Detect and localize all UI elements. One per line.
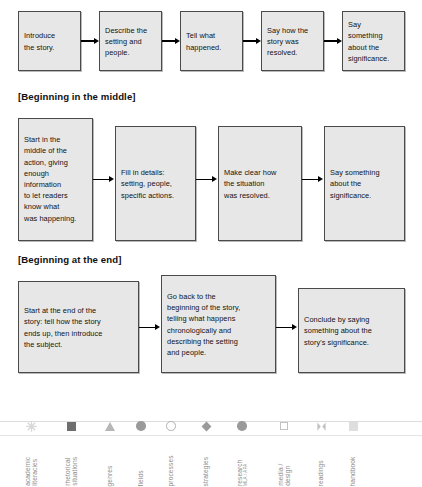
legend-item-processes[interactable]: processes [158,404,184,487]
arrow-head-icon [256,38,261,44]
arrow-head-icon [109,176,114,182]
flow-box: Go back to the beginning of the story, t… [161,275,276,373]
flow-arrow [93,176,115,183]
section-heading-beginning-at-the-end: [Beginning at the end] [18,254,121,265]
flow-arrow [81,38,99,45]
flow-box: Introduce the story. [18,11,81,71]
flow-arrow [139,324,161,331]
arrow-head-icon [212,176,217,182]
flow-box: Fill in details: setting, people, specif… [115,126,196,241]
legend-item-genres[interactable]: genres [97,404,123,487]
legend-label-line1: readings [317,460,324,486]
flow-box: Start in the middle of the action, givin… [18,118,93,241]
legend-label-line1: media / [277,464,284,486]
legend-label-line1: academic [24,457,31,486]
arrow-head-icon [94,38,99,44]
legend-label: academic literacies [18,436,44,486]
legend-navigation-bar: academic literacies rhetorical situation… [0,404,422,487]
legend-item-research[interactable]: research MLA / APA [229,404,255,487]
legend-label: handbook [340,436,366,486]
legend-label: media / design [271,436,297,486]
star-icon [18,418,44,434]
flow-box: Describe the setting and people. [99,11,162,71]
circle-filled-icon [128,418,154,434]
square-open-icon [271,418,297,434]
diamond-icon [193,418,219,434]
flow-box: Conclude by saying something about the s… [298,288,405,373]
square-light-icon [340,418,366,434]
legend-label-line2: situations [71,457,78,486]
triangle-icon [97,418,123,434]
square-filled-icon [58,418,84,434]
legend-label-line2: design [284,464,291,486]
circle-filled-icon [229,418,255,434]
section-heading-beginning-in-the-middle: [Beginning in the middle] [18,91,136,102]
flow-box: Start at the end of the story: tell how … [18,281,139,373]
legend-label: fields [128,436,154,486]
legend-label-line1: strategies [202,456,209,486]
page-root: Introduce the story. Describe the settin… [0,0,422,487]
legend-item-media-design[interactable]: media / design [271,404,297,487]
legend-label: strategies [193,436,219,486]
legend-label-line1: rhetorical [64,458,71,486]
legend-label-line2: literacies [31,457,38,486]
flow-box: Make clear how the situation was resolve… [218,126,302,241]
flow-arrow [276,324,298,331]
bowtie-icon [308,418,334,434]
arrow-head-icon [318,176,323,182]
arrow-head-icon [175,38,180,44]
legend-item-fields[interactable]: fields [128,404,154,487]
legend-label: processes [158,436,184,486]
legend-label-line1: research [236,460,243,486]
legend-label: genres [97,436,123,486]
flow-arrow [302,176,324,183]
legend-label: research MLA / APA [229,436,255,486]
flow-box: Say how the story was resolved. [261,11,324,71]
legend-item-strategies[interactable]: strategies [193,404,219,487]
legend-label-line1: handbook [349,456,356,486]
circle-open-icon [158,418,184,434]
legend-item-handbook[interactable]: handbook [340,404,366,487]
arrow-head-icon [155,324,160,330]
legend-label-sub: MLA / APA [243,460,249,486]
flow-arrow [196,176,218,183]
flow-box: Say something about the significance. [324,126,405,241]
flow-box: Say something about the significance. [342,11,405,71]
legend-item-academic-literacies[interactable]: academic literacies [18,404,44,487]
arrow-head-icon [292,324,297,330]
legend-label-line1: genres [106,465,113,486]
flow-arrow [243,38,261,45]
legend-label: rhetorical situations [58,436,84,486]
arrow-head-icon [337,38,342,44]
legend-label: readings [308,436,334,486]
flow-arrow [162,38,180,45]
legend-item-readings[interactable]: readings [308,404,334,487]
legend-label-line1: fields [137,470,144,486]
legend-item-rhetorical-situations[interactable]: rhetorical situations [58,404,84,487]
flow-box: Tell what happened. [180,11,243,71]
legend-label-line1: processes [167,455,174,486]
flow-arrow [324,38,342,45]
